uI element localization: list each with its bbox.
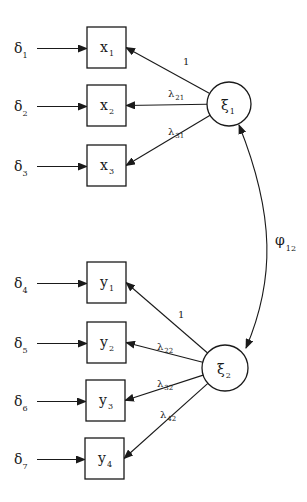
loading-x2-label: λ21: [168, 88, 184, 102]
labels-layer: ξ1ξ2x1δ11x2δ2λ21x3δ3λ31y1δ41y2δ5λ22y3δ6λ…: [14, 39, 296, 471]
loading-subscript: 22: [164, 347, 173, 355]
covariance-arrow: [239, 125, 267, 348]
indicator-symbol: y: [98, 392, 107, 408]
loading-y1-label: 1: [178, 309, 184, 320]
error-subscript: 4: [22, 286, 27, 295]
error-subscript: 1: [22, 51, 27, 60]
indicator-subscript: 3: [109, 167, 114, 176]
loading-x3-arrow: [126, 115, 210, 165]
covariance-subscript: 12: [286, 244, 296, 253]
covariance-label: φ12: [275, 232, 296, 253]
error-x3-label: δ3: [14, 158, 28, 178]
error-symbol: δ: [14, 451, 22, 467]
loading-value: 1: [178, 309, 184, 320]
error-y3-label: δ6: [14, 393, 28, 413]
error-subscript: 7: [22, 462, 27, 471]
latent-symbol: ξ: [217, 361, 225, 377]
indicator-subscript: 1: [109, 49, 114, 58]
loading-subscript: 21: [175, 94, 184, 102]
loading-y3-label: λ32: [157, 378, 173, 392]
error-x1-label: δ1: [14, 40, 28, 60]
indicator-subscript: 2: [109, 107, 114, 116]
loading-symbol: λ: [168, 88, 175, 99]
loading-y2-label: λ22: [157, 341, 173, 355]
loading-symbol: λ: [168, 126, 175, 137]
error-subscript: 5: [22, 346, 27, 355]
error-subscript: 2: [22, 109, 27, 118]
latent-symbol: ξ: [221, 97, 229, 113]
error-symbol: δ: [14, 98, 22, 114]
error-symbol: δ: [14, 275, 22, 291]
loading-symbol: λ: [160, 409, 167, 420]
covariance-symbol: φ: [275, 232, 285, 248]
error-x2-label: δ2: [14, 98, 28, 118]
indicator-symbol: x: [100, 157, 108, 173]
indicator-subscript: 4: [107, 460, 112, 469]
latent-subscript: 1: [230, 107, 235, 116]
loading-value: 1: [183, 56, 189, 67]
loading-x3-label: λ31: [168, 126, 184, 140]
error-symbol: δ: [14, 393, 22, 409]
error-y1-label: δ4: [14, 275, 28, 295]
latent-xi2-circle: [202, 345, 248, 391]
indicator-subscript: 2: [109, 344, 114, 353]
loading-y4-label: λ42: [160, 409, 176, 423]
loading-subscript: 42: [167, 415, 176, 423]
indicator-subscript: 1: [109, 284, 114, 293]
loading-symbol: λ: [157, 378, 164, 389]
indicator-symbol: y: [99, 334, 108, 350]
latent-subscript: 2: [226, 371, 231, 380]
error-symbol: δ: [14, 158, 22, 174]
loading-subscript: 32: [164, 384, 173, 392]
loading-x2-arrow: [126, 104, 207, 105]
loading-subscript: 31: [175, 132, 184, 140]
error-y4-label: δ7: [14, 451, 28, 471]
indicator-symbol: x: [100, 97, 108, 113]
error-symbol: δ: [14, 40, 22, 56]
indicator-symbol: y: [97, 450, 106, 466]
error-subscript: 3: [22, 169, 27, 178]
loading-y4-arrow: [124, 383, 208, 458]
loading-x1-label: 1: [183, 56, 189, 67]
error-subscript: 6: [22, 404, 27, 413]
error-y2-label: δ5: [14, 335, 28, 355]
loading-y1-arrow: [126, 283, 208, 353]
error-symbol: δ: [14, 335, 22, 351]
indicator-subscript: 3: [108, 402, 113, 411]
loading-x1-arrow: [126, 48, 210, 94]
path-diagram: ξ1ξ2x1δ11x2δ2λ21x3δ3λ31y1δ41y2δ5λ22y3δ6λ…: [0, 0, 307, 502]
indicator-symbol: y: [99, 274, 108, 290]
loading-symbol: λ: [157, 341, 164, 352]
latent-xi1-circle: [207, 82, 251, 126]
indicator-symbol: x: [100, 39, 108, 55]
